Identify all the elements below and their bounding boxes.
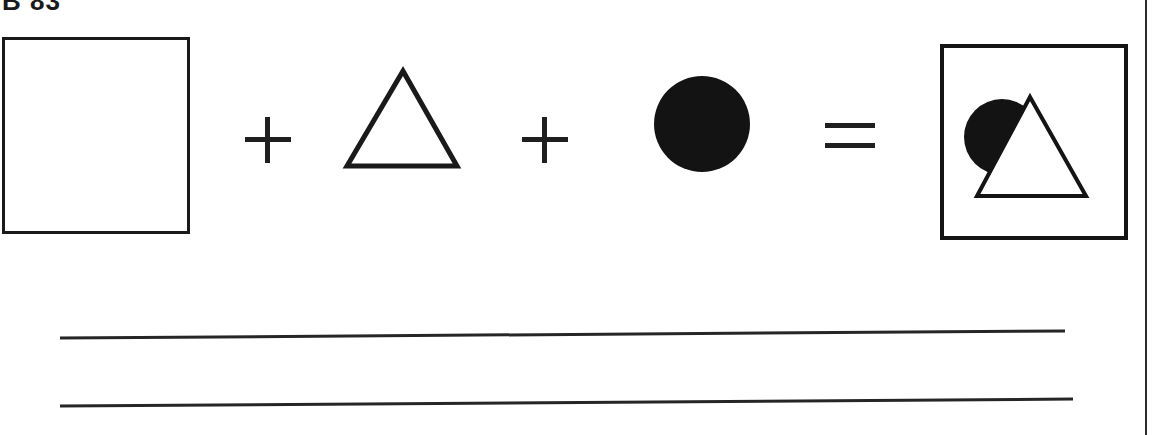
page-title: B 83 — [2, 0, 61, 15]
operand-triangle — [340, 66, 462, 178]
answer-line-1 — [60, 331, 1065, 338]
operator-plus-icon-1 — [245, 117, 291, 163]
operator-equals-icon — [825, 120, 875, 148]
shape-equation — [0, 30, 1145, 245]
answer-line-2 — [60, 399, 1073, 406]
worksheet-page: B 83 — [0, 0, 1165, 435]
operand-circle — [654, 76, 750, 172]
page-edge-rule-right — [1145, 0, 1147, 435]
equals-bar-bottom — [825, 143, 875, 148]
operator-plus-icon-2 — [522, 117, 568, 163]
operand-square — [2, 37, 190, 234]
result-composition-box — [940, 44, 1128, 240]
equals-bar-top — [825, 123, 875, 128]
